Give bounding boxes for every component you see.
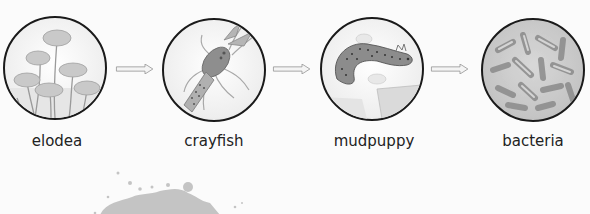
arrow-right-icon (424, 64, 476, 74)
bacteria-label: bacteria (473, 132, 590, 150)
elodea-label: elodea (0, 132, 117, 150)
mudpuppy-label: mudpuppy (314, 132, 434, 150)
bacteria-circle (481, 18, 585, 122)
mudpuppy-icon (322, 19, 422, 119)
crayfish-circle (162, 18, 266, 122)
bacteria-icon (483, 20, 583, 120)
elodea-circle (3, 16, 107, 120)
water-splash-icon (60, 165, 280, 214)
arrow-right-icon (109, 64, 161, 74)
food-chain-diagram: elodea crayfish (0, 0, 590, 214)
arrow-right-icon (266, 64, 318, 74)
crayfish-icon (164, 20, 264, 120)
mudpuppy-circle (320, 17, 424, 121)
crayfish-label: crayfish (154, 132, 274, 150)
elodea-plant-icon (5, 18, 105, 118)
